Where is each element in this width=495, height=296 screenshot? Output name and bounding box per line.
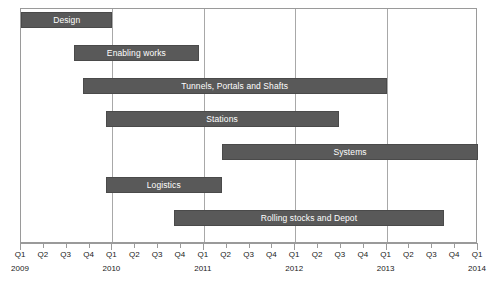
quarter-tick-label: Q4 (449, 250, 460, 259)
quarter-tick-label: Q3 (335, 250, 346, 259)
quarter-tick-label: Q1 (289, 250, 300, 259)
axis-tick (226, 243, 227, 248)
axis-tick (249, 243, 250, 248)
gantt-bar[interactable]: Tunnels, Portals and Shafts (83, 78, 387, 94)
quarter-tick-label: Q2 (220, 250, 231, 259)
axis-tick (180, 243, 181, 248)
plot-area: DesignEnabling worksTunnels, Portals and… (20, 8, 477, 243)
quarter-tick-label: Q3 (60, 250, 71, 259)
axis-tick (157, 243, 158, 248)
gantt-bar-label: Tunnels, Portals and Shafts (181, 82, 288, 91)
axis-tick (317, 243, 318, 248)
year-axis-label: 2012 (285, 264, 303, 273)
quarter-tick-label: Q4 (357, 250, 368, 259)
gantt-bar-label: Stations (206, 115, 238, 124)
year-axis-label: 2014 (468, 264, 486, 273)
axis-tick (340, 243, 341, 248)
axis-tick (294, 243, 295, 250)
axis-tick (111, 243, 112, 250)
quarter-tick-label: Q3 (152, 250, 163, 259)
quarter-tick-label: Q4 (83, 250, 94, 259)
gridline-2013 (387, 9, 388, 242)
gantt-bar[interactable]: Stations (106, 111, 339, 127)
quarter-tick-label: Q3 (243, 250, 254, 259)
quarter-tick-label: Q1 (15, 250, 26, 259)
x-axis: Q1Q2Q3Q4Q1Q2Q3Q4Q1Q2Q3Q4Q1Q2Q3Q4Q1Q2Q3Q4… (20, 243, 477, 296)
quarter-tick-label: Q1 (197, 250, 208, 259)
axis-tick (431, 243, 432, 248)
axis-tick (20, 243, 21, 250)
axis-tick (134, 243, 135, 248)
axis-tick (363, 243, 364, 248)
quarter-tick-label: Q1 (106, 250, 117, 259)
quarter-tick-label: Q2 (129, 250, 140, 259)
year-axis-label: 2013 (377, 264, 395, 273)
gantt-bar[interactable]: Logistics (106, 177, 223, 193)
gantt-bar-label: Design (53, 16, 80, 25)
year-axis-label: 2011 (194, 264, 211, 273)
quarter-tick-label: Q2 (312, 250, 323, 259)
gantt-bar[interactable]: Design (21, 12, 112, 28)
axis-tick (386, 243, 387, 250)
gantt-bar[interactable]: Systems (222, 144, 478, 160)
gantt-bar-label: Rolling stocks and Depot (261, 214, 357, 223)
axis-tick (43, 243, 44, 248)
year-axis-label: 2009 (11, 264, 29, 273)
gantt-chart: DesignEnabling worksTunnels, Portals and… (0, 0, 495, 296)
gantt-bar[interactable]: Enabling works (74, 45, 200, 61)
axis-tick (271, 243, 272, 248)
axis-tick (408, 243, 409, 248)
quarter-tick-label: Q2 (403, 250, 414, 259)
quarter-tick-label: Q2 (38, 250, 49, 259)
axis-tick (66, 243, 67, 248)
quarter-tick-label: Q4 (175, 250, 186, 259)
year-axis-label: 2010 (102, 264, 120, 273)
quarter-tick-label: Q1 (380, 250, 391, 259)
axis-tick (203, 243, 204, 250)
axis-tick (89, 243, 90, 248)
quarter-tick-label: Q4 (266, 250, 277, 259)
gantt-bar-label: Systems (333, 148, 366, 157)
gantt-bar-label: Logistics (147, 181, 181, 190)
quarter-tick-label: Q3 (426, 250, 437, 259)
gantt-bar-label: Enabling works (107, 49, 166, 58)
gantt-bar[interactable]: Rolling stocks and Depot (174, 210, 444, 226)
axis-tick (477, 243, 478, 250)
axis-tick (454, 243, 455, 248)
quarter-tick-label: Q1 (472, 250, 483, 259)
